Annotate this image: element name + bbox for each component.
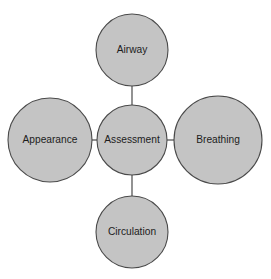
node-breathing[interactable]: Breathing	[174, 96, 262, 184]
circulation-label: Circulation	[108, 226, 156, 237]
node-circulation[interactable]: Circulation	[96, 196, 168, 268]
breathing-label: Breathing	[196, 134, 240, 145]
assessment-hub-diagram: Airway Breathing Circulation Appearance …	[0, 0, 271, 279]
node-appearance[interactable]: Appearance	[8, 98, 92, 182]
node-assessment-center[interactable]: Assessment	[97, 105, 167, 175]
appearance-label: Appearance	[23, 134, 78, 145]
airway-label: Airway	[117, 44, 148, 55]
diagram-canvas: Airway Breathing Circulation Appearance …	[0, 0, 271, 279]
node-airway[interactable]: Airway	[96, 14, 168, 86]
assessment-label: Assessment	[104, 134, 160, 145]
